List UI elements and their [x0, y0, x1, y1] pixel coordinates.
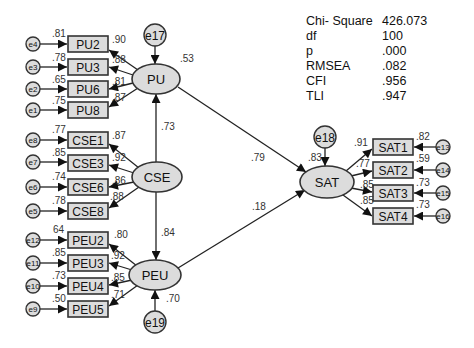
- loading-value: .87: [112, 130, 126, 141]
- loading-value: .85: [111, 272, 125, 283]
- error-label: e8: [29, 136, 38, 145]
- loading-value: .88: [110, 191, 124, 202]
- pu-indicator-group: e4 e3 e2 e1 PU2 PU3 PU6 PU8 .81 .78 .65 …: [26, 28, 138, 118]
- error-label: e7: [29, 158, 38, 167]
- r2-value: .50: [52, 293, 66, 304]
- r2-value: .65: [52, 74, 66, 85]
- loading-value: .80: [114, 229, 128, 240]
- disturbance-e17-label: e17: [145, 29, 165, 43]
- indicator-label: SAT2: [378, 164, 407, 178]
- loading-value: .90: [112, 34, 126, 45]
- disturbance-e19-label: e19: [145, 316, 165, 330]
- indicator-label: PEU2: [72, 234, 104, 248]
- indicator-label: PU8: [76, 104, 100, 118]
- loading-value: .85: [360, 195, 374, 206]
- indicator-label: PU6: [76, 83, 100, 97]
- indicator-label: CSE1: [72, 134, 104, 148]
- peu-indicator-group: e12 e11 e10 e9 PEU2 PEU3 PEU4 PEU5 64 .8…: [26, 224, 138, 317]
- r2-value: .85: [52, 147, 66, 158]
- path-coef-pu-sat: .79: [251, 152, 265, 163]
- error-label: e14: [436, 166, 450, 175]
- latent-sat-r2: .83: [308, 152, 322, 163]
- indicator-label: CSE8: [72, 205, 104, 219]
- path-coef-cse-pu: .73: [161, 121, 175, 132]
- loading-arrow: [109, 67, 133, 75]
- r2-value: .78: [52, 195, 66, 206]
- latent-pu-label: PU: [147, 72, 165, 87]
- r2-value: .81: [52, 28, 66, 39]
- indicator-label: PEU5: [72, 303, 104, 317]
- loading-value: .81: [112, 76, 126, 87]
- r2-value: .75: [52, 95, 66, 106]
- r2-value: .59: [416, 153, 430, 164]
- latent-variables: PU .53 CSE PEU .70 SAT .83 e17 e19 e18: [129, 24, 354, 333]
- loading-value: .85: [360, 179, 374, 190]
- latent-pu-r2: .53: [180, 53, 194, 64]
- error-label: e9: [29, 305, 38, 314]
- loading-value: .92: [111, 250, 125, 261]
- cse-indicator-group: e8 e7 e6 e5 CSE1 CSE3 CSE6 CSE8 .77 .85 …: [26, 124, 139, 219]
- indicator-label: SAT1: [378, 141, 407, 155]
- error-label: e10: [26, 282, 40, 291]
- r2-value: .73: [52, 270, 66, 281]
- loading-arrow: [109, 165, 134, 173]
- loading-value: .87: [112, 92, 126, 103]
- latent-cse-label: CSE: [144, 170, 171, 185]
- r2-value: .82: [416, 131, 430, 142]
- indicator-label: SAT3: [378, 187, 407, 201]
- error-label: e15: [436, 189, 450, 198]
- error-label: e6: [29, 183, 38, 192]
- r2-value: .85: [52, 247, 66, 258]
- r2-value: 64: [53, 224, 65, 235]
- latent-peu-r2: .70: [166, 293, 180, 304]
- error-label: e4: [29, 40, 38, 49]
- loading-value: .88: [112, 54, 126, 65]
- indicator-label: CSE3: [72, 157, 104, 171]
- error-label: e2: [29, 85, 38, 94]
- error-label: e1: [29, 106, 38, 115]
- latent-sat-label: SAT: [315, 175, 339, 190]
- loading-value: .71: [111, 289, 125, 300]
- indicator-label: PEU3: [72, 257, 104, 271]
- r2-value: .74: [52, 171, 66, 182]
- path-coef-cse-peu: .84: [161, 227, 175, 238]
- disturbance-e18-label: e18: [315, 131, 335, 145]
- loading-value: .91: [354, 137, 368, 148]
- indicator-label: CSE6: [72, 181, 104, 195]
- r2-value: .78: [52, 52, 66, 63]
- loading-value: .77: [356, 158, 370, 169]
- sem-diagram: e4 e3 e2 e1 PU2 PU3 PU6 PU8 .81 .78 .65 …: [0, 0, 474, 348]
- loading-arrow: [109, 263, 132, 270]
- error-label: e3: [29, 63, 38, 72]
- indicator-label: SAT4: [378, 210, 407, 224]
- error-label: e13: [436, 143, 450, 152]
- error-label: e11: [27, 259, 40, 268]
- indicator-label: PU2: [76, 38, 100, 52]
- r2-value: .77: [52, 124, 66, 135]
- indicator-label: PU3: [76, 61, 100, 75]
- indicator-label: PEU4: [72, 280, 104, 294]
- error-label: e12: [26, 236, 40, 245]
- loading-arrow: [351, 171, 372, 176]
- sat-indicator-group: SAT1 SAT2 SAT3 SAT4 e13 e14 e15 e16 .91 …: [343, 131, 450, 224]
- latent-peu-label: PEU: [142, 268, 169, 283]
- path-pu-sat: [178, 87, 306, 172]
- error-label: e5: [29, 207, 38, 216]
- r2-value: .73: [416, 177, 430, 188]
- path-coef-peu-sat: .18: [252, 201, 266, 212]
- r2-value: .73: [416, 199, 430, 210]
- loading-value: .92: [112, 152, 126, 163]
- loading-value: .86: [112, 175, 126, 186]
- path-peu-sat: [178, 190, 305, 268]
- error-label: e16: [436, 212, 450, 221]
